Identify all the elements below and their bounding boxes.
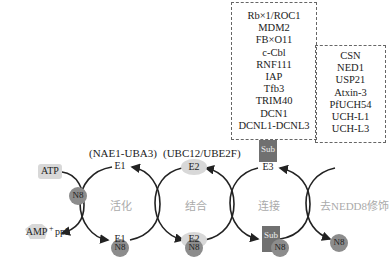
dub-item: USP21 bbox=[316, 74, 385, 86]
dub-item: Atxin-3 bbox=[316, 87, 385, 99]
e1-complex-label: (NAE1-UBA3) bbox=[89, 147, 157, 159]
sub-n8-label: N8 bbox=[271, 242, 289, 252]
dub-item: NED1 bbox=[316, 62, 385, 74]
deneddylase-list: CSN NED1 USP21 Atxin-3 PfUCH54 UCH-L1 UC… bbox=[315, 45, 386, 143]
e3-item: Rb×1/ROC1 bbox=[232, 10, 316, 22]
stage-conjugation: 结合 bbox=[185, 197, 207, 213]
sub-top-label: Sub bbox=[259, 144, 277, 154]
e3-item: IAP bbox=[232, 71, 316, 83]
atp-label: ATP bbox=[38, 165, 62, 176]
e3-item: DCN1 bbox=[232, 108, 316, 120]
e1-top-label: E1 bbox=[110, 160, 130, 171]
e1-n8-label: N8 bbox=[111, 242, 129, 252]
sub-bottom-label: Sub bbox=[262, 230, 280, 240]
activation-arc-left bbox=[80, 167, 112, 240]
e2-n8-label: N8 bbox=[185, 242, 203, 252]
e3-item: RNF111 bbox=[232, 59, 316, 71]
dub-item: UCH-L1 bbox=[316, 111, 385, 123]
stage-activation: 活化 bbox=[110, 197, 132, 213]
dub-item: UCH-L3 bbox=[316, 123, 385, 135]
dub-item: CSN bbox=[316, 50, 385, 62]
e3-ligase-list: Rb×1/ROC1 MDM2 FB×O11 c-Cbl RNF111 IAP T… bbox=[231, 2, 317, 140]
stage-ligation: 连接 bbox=[258, 197, 280, 213]
e3-item: DCNL1-DCNL3 bbox=[232, 120, 316, 132]
dub-item: PfUCH54 bbox=[316, 99, 385, 111]
e3-item: TRIM40 bbox=[232, 95, 316, 107]
plus-label: + bbox=[49, 224, 54, 233]
stage-deneddylation: 去NEDD8修饰 bbox=[320, 197, 389, 213]
e3-item: c-Cbl bbox=[232, 47, 316, 59]
amp-label: AMP bbox=[25, 226, 48, 237]
n8-released-label: N8 bbox=[330, 237, 348, 247]
e3-item: MDM2 bbox=[232, 22, 316, 34]
e3-label: E3 bbox=[258, 161, 278, 172]
e3-item: Tfb3 bbox=[232, 83, 316, 95]
e2-complex-label: (UBC12/UBE2F) bbox=[163, 147, 241, 159]
n8-free-label: N8 bbox=[69, 190, 87, 200]
e2-top-label: E2 bbox=[184, 161, 204, 172]
ppi-label: ppi bbox=[55, 226, 68, 237]
e3-item: FB×O11 bbox=[232, 34, 316, 46]
